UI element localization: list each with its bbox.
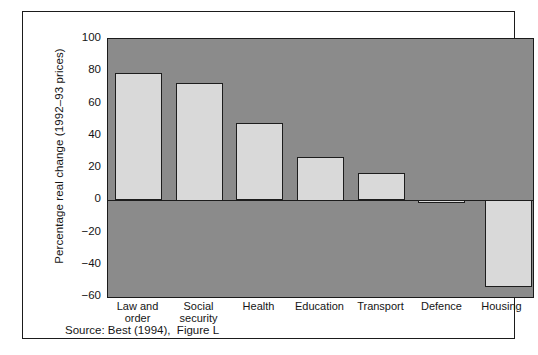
- figure-border: Percentage real change (1992–93 prices) …: [22, 11, 515, 339]
- y-tick-label: −40: [67, 258, 101, 270]
- x-axis-label: Law andorder: [107, 301, 168, 324]
- y-tick-label: 20: [67, 161, 101, 173]
- x-axis-label: Socialsecurity: [168, 301, 229, 324]
- bar: [236, 123, 283, 200]
- x-axis-label: Health: [228, 301, 289, 313]
- source-note: Source: Best (1994), Figure L: [65, 324, 219, 336]
- bar: [485, 200, 532, 287]
- y-tick-label: 80: [67, 64, 101, 76]
- x-axis-label: Transport: [350, 301, 411, 313]
- bars-layer: [108, 39, 533, 297]
- y-tick-label: 60: [67, 97, 101, 109]
- x-axis-label: Defence: [411, 301, 472, 313]
- bar: [358, 173, 405, 200]
- y-axis-tick-labels: 100806040200−20−40−60: [63, 12, 101, 323]
- bar: [418, 200, 465, 203]
- figure-container: Percentage real change (1992–93 prices) …: [0, 0, 538, 355]
- x-axis-label: Housing: [471, 301, 532, 313]
- y-tick-label: 0: [67, 193, 101, 205]
- bar: [297, 157, 344, 201]
- y-tick-label: −60: [67, 290, 101, 302]
- x-axis-label: Education: [289, 301, 350, 313]
- y-tick-label: 100: [67, 32, 101, 44]
- bar: [115, 73, 162, 200]
- y-tick-label: 40: [67, 129, 101, 141]
- bar: [176, 83, 223, 201]
- plot-area: [107, 38, 534, 298]
- y-tick-label: −20: [67, 226, 101, 238]
